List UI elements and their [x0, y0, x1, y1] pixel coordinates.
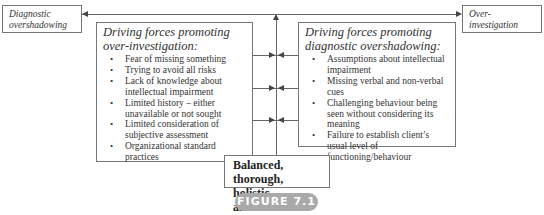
list-item: Trying to avoid all risks	[125, 65, 246, 76]
arrow-right-icon	[269, 52, 275, 58]
arrow-left-icon	[278, 52, 284, 58]
diagnostic-overshadowing-box: Diagnostic overshadowing	[2, 5, 82, 33]
arrow-up-icon	[273, 14, 279, 20]
connector-1	[253, 55, 298, 56]
list-item: Challenging behaviour being seen without…	[327, 98, 449, 131]
arrow-left-icon	[82, 11, 88, 17]
connector-2	[253, 88, 298, 89]
balanced-assessment-box: Balanced, thorough, holistic assessment	[224, 155, 330, 188]
arrow-left-icon	[278, 85, 284, 91]
over-investigation-label: Over-investigation	[469, 9, 518, 30]
diagnostic-overshadowing-forces-title: Driving forces promoting diagnostic over…	[305, 26, 449, 53]
list-item: Limited history – either unavailable or …	[125, 98, 246, 120]
over-investigation-forces-title: Driving forces promoting over-investigat…	[103, 26, 246, 53]
list-item: Lack of knowledge about intellectual imp…	[125, 76, 246, 98]
arrow-left-icon	[278, 117, 284, 123]
list-item: Fear of missing something	[125, 54, 246, 65]
over-investigation-forces-list: Fear of missing something Trying to avoi…	[103, 54, 246, 163]
arrow-right-icon	[269, 85, 275, 91]
top-axis-line	[82, 14, 460, 15]
diagnostic-overshadowing-forces-box: Driving forces promoting diagnostic over…	[298, 22, 456, 147]
list-item: Limited consideration of subjective asse…	[125, 119, 246, 141]
list-item: Missing verbal and non-verbal cues	[327, 76, 449, 98]
over-investigation-box: Over-investigation	[462, 5, 542, 33]
connector-3	[253, 120, 298, 121]
arrow-right-icon	[269, 117, 275, 123]
diagnostic-overshadowing-forces-list: Assumptions about intellectual impairmen…	[305, 54, 449, 163]
over-investigation-forces-box: Driving forces promoting over-investigat…	[96, 22, 253, 162]
figure-label-badge: FIGURE 7.1	[235, 193, 318, 211]
list-item: Failure to establish client’s usual leve…	[327, 130, 449, 163]
list-item: Assumptions about intellectual impairmen…	[327, 54, 449, 76]
center-vertical-line	[276, 16, 277, 168]
diagnostic-overshadowing-label: Diagnostic overshadowing	[9, 9, 67, 30]
